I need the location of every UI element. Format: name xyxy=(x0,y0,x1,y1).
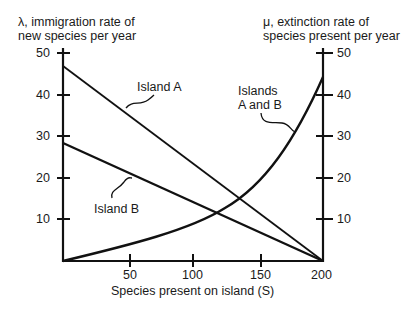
left-axis-title-line1: λ, immigration rate of xyxy=(18,15,136,29)
right-axis-title-line1: μ, extinction rate of xyxy=(263,15,400,29)
left-tick-50: 50 xyxy=(36,46,50,60)
island-b-label: Island B xyxy=(94,202,139,216)
right-tick-40: 40 xyxy=(337,88,351,102)
left-axis-title-line2: new species per year xyxy=(18,29,136,43)
extinction-curve xyxy=(63,77,323,261)
right-tick-50: 50 xyxy=(337,46,351,60)
x-tick-100: 100 xyxy=(182,268,203,282)
island-a-pointer xyxy=(126,95,154,108)
chart-plot xyxy=(0,0,418,314)
islands-ab-label: Islands A and B xyxy=(238,84,282,112)
right-y-ticks xyxy=(316,53,333,219)
islands-ab-label-line1: Islands xyxy=(238,84,282,98)
islands-ab-label-line2: A and B xyxy=(238,98,282,112)
right-axis-title-line2: species present per year xyxy=(263,29,400,43)
right-tick-30: 30 xyxy=(337,129,351,143)
left-axis-title: λ, immigration rate of new species per y… xyxy=(18,15,136,43)
right-tick-10: 10 xyxy=(337,212,351,226)
left-tick-10: 10 xyxy=(36,212,50,226)
island-a-line xyxy=(63,66,323,261)
island-a-label: Island A xyxy=(137,80,181,94)
right-axis-title: μ, extinction rate of species present pe… xyxy=(263,15,400,43)
right-tick-20: 20 xyxy=(337,171,351,185)
left-tick-40: 40 xyxy=(36,88,50,102)
x-axis-title: Species present on island (S) xyxy=(111,284,274,298)
islands-ab-pointer xyxy=(261,113,295,132)
left-tick-30: 30 xyxy=(36,129,50,143)
x-tick-50: 50 xyxy=(123,268,137,282)
x-tick-200: 200 xyxy=(311,268,332,282)
island-b-pointer xyxy=(112,178,132,198)
left-tick-20: 20 xyxy=(36,171,50,185)
x-tick-150: 150 xyxy=(250,268,271,282)
